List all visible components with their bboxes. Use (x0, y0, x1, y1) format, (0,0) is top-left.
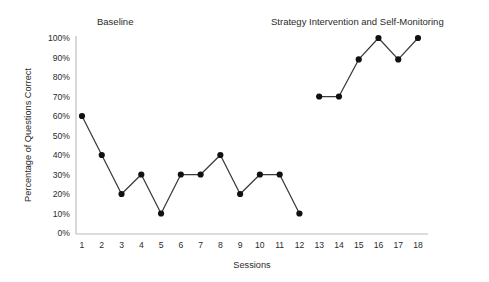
x-tick-label: 12 (295, 240, 305, 250)
data-point (178, 171, 184, 177)
data-series (316, 35, 421, 100)
series-line (82, 116, 299, 214)
data-point (375, 35, 381, 41)
x-tick-label: 18 (413, 240, 423, 250)
data-point (158, 210, 164, 216)
data-point (237, 191, 243, 197)
x-tick-label: 16 (374, 240, 384, 250)
data-point (217, 152, 223, 158)
data-point (277, 171, 283, 177)
data-point (356, 56, 362, 62)
phase-label-baseline: Baseline (97, 16, 133, 27)
x-tick-label: 5 (159, 240, 164, 250)
y-tick-label: 100% (48, 33, 70, 43)
y-tick-label: 70% (53, 92, 71, 102)
x-axis-title: Sessions (233, 260, 271, 270)
y-axis-title: Percentage of Questions Correct (23, 68, 33, 202)
phase-label-intervention: Strategy Intervention and Self-Monitorin… (271, 16, 444, 27)
y-tick-label: 50% (53, 131, 71, 141)
y-tick-label: 40% (53, 150, 71, 160)
y-tick-label: 30% (53, 170, 71, 180)
x-tick-label: 15 (354, 240, 364, 250)
x-tick-label: 10 (255, 240, 265, 250)
data-point (99, 152, 105, 158)
data-point (79, 113, 85, 119)
x-tick-label: 8 (218, 240, 223, 250)
x-tick-label: 7 (198, 240, 203, 250)
data-point (316, 93, 322, 99)
data-point (336, 93, 342, 99)
y-axis-tick-labels: 0%10%20%30%40%50%60%70%80%90%100% (48, 33, 70, 238)
x-tick-label: 1 (80, 240, 85, 250)
x-tick-label: 6 (178, 240, 183, 250)
y-tick-label: 20% (53, 189, 71, 199)
y-tick-label: 10% (53, 209, 71, 219)
x-tick-label: 2 (99, 240, 104, 250)
x-tick-label: 4 (139, 240, 144, 250)
data-point (257, 171, 263, 177)
data-series-layer (79, 35, 421, 217)
data-point (296, 210, 302, 216)
y-tick-label: 60% (53, 111, 71, 121)
data-series (79, 113, 303, 217)
line-chart: Baseline Strategy Intervention and Self-… (0, 0, 489, 282)
x-tick-label: 17 (393, 240, 403, 250)
x-axis-tick-labels: 123456789101112131415161718 (80, 240, 423, 250)
x-tick-label: 3 (119, 240, 124, 250)
data-point (197, 171, 203, 177)
series-line (319, 38, 418, 97)
y-tick-label: 0% (58, 228, 71, 238)
x-tick-label: 11 (275, 240, 284, 250)
x-tick-label: 9 (238, 240, 243, 250)
y-tick-label: 80% (53, 72, 71, 82)
data-point (415, 35, 421, 41)
chart-container: Baseline Strategy Intervention and Self-… (0, 0, 489, 282)
data-point (138, 171, 144, 177)
x-tick-label: 14 (334, 240, 344, 250)
x-tick-label: 13 (314, 240, 324, 250)
data-point (395, 56, 401, 62)
data-point (118, 191, 124, 197)
y-tick-label: 90% (53, 53, 71, 63)
